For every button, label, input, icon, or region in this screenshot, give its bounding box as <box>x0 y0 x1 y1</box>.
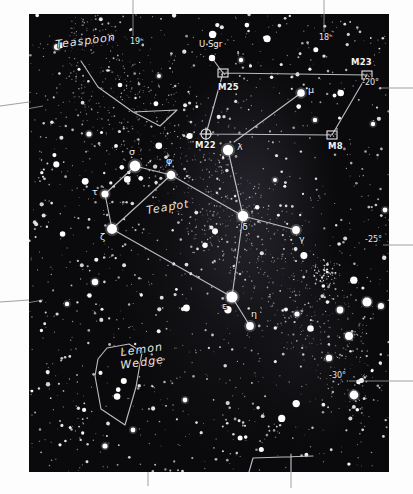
deep-sky-label-m23: M23 <box>351 57 372 67</box>
dec-tick-label-2: -30° <box>329 371 346 380</box>
cluster-dot <box>224 74 225 75</box>
cluster-dot <box>368 76 369 77</box>
star-label-sigma: σ <box>129 146 135 157</box>
star-mu[interactable] <box>297 89 305 97</box>
deep-sky-label-m25: M25 <box>218 82 239 92</box>
variable-star-label-u-sgr: U Sgr <box>199 39 223 49</box>
star-delta[interactable] <box>238 211 248 221</box>
asterism-label-teapot: Teapot <box>145 197 190 217</box>
open-cluster-marker-m25[interactable] <box>218 69 228 77</box>
star-u-sgr[interactable] <box>209 55 215 61</box>
cluster-dot <box>335 133 336 134</box>
cluster-dot <box>331 133 332 134</box>
star-sigma[interactable] <box>130 161 141 172</box>
deep-sky-label-m8: M8 <box>328 141 343 151</box>
star-eta[interactable] <box>246 322 254 330</box>
edge-tick-margin-left-0 <box>0 102 29 106</box>
cluster-dot <box>366 73 367 74</box>
deep-sky-label-m22: M22 <box>195 140 216 150</box>
cluster-dot <box>222 71 223 72</box>
star-label-tau: τ <box>92 186 98 197</box>
dec-tick-label-1: -25° <box>365 235 382 244</box>
star-label-gamma: γ <box>299 233 305 244</box>
star-chart-root: σφτζλδγεημM25M23M8M22U SgrTeapotTeaspoon… <box>0 0 413 494</box>
cluster-dot <box>363 73 364 74</box>
cluster-dot <box>365 76 366 77</box>
cluster-dot <box>333 136 334 137</box>
cluster-dot <box>219 71 220 72</box>
edge-tick-left-0 <box>29 106 43 110</box>
asterism-label-teaspoon: Teaspoon <box>55 31 117 51</box>
cluster-dot <box>330 136 331 137</box>
star-phi[interactable] <box>167 171 176 180</box>
star-label-zeta: ζ <box>100 231 105 242</box>
star-zeta[interactable] <box>107 224 117 234</box>
edge-tick-left-1 <box>29 300 43 304</box>
star-tau[interactable] <box>101 190 108 197</box>
star-epsilon[interactable] <box>226 291 237 302</box>
edge-tick-margin-left-1 <box>0 300 29 302</box>
sky-plate: σφτζλδγεημM25M23M8M22U SgrTeapotTeaspoon… <box>29 14 389 472</box>
ra-tick-label-0: 19ʰ <box>130 37 143 46</box>
star-label-delta: δ <box>242 221 248 232</box>
open-cluster-marker-m8[interactable] <box>327 131 337 139</box>
ra-tick-label-1: 18ʰ <box>319 33 332 42</box>
star-label-phi: φ <box>166 155 172 166</box>
cluster-dot <box>226 71 227 72</box>
star-label-lambda: λ <box>237 141 243 152</box>
star-lambda[interactable] <box>223 145 233 155</box>
cluster-dot <box>328 133 329 134</box>
named-objects-layer: σφτζλδγεημM25M23M8M22U SgrTeapotTeaspoon… <box>29 14 389 472</box>
star-label-epsilon: ε <box>222 300 227 311</box>
dec-tick-label-0: -20° <box>362 78 379 87</box>
cluster-dot <box>370 73 371 74</box>
star-label-eta: η <box>251 308 257 319</box>
star-label-mu: μ <box>308 84 314 95</box>
cluster-dot <box>221 74 222 75</box>
